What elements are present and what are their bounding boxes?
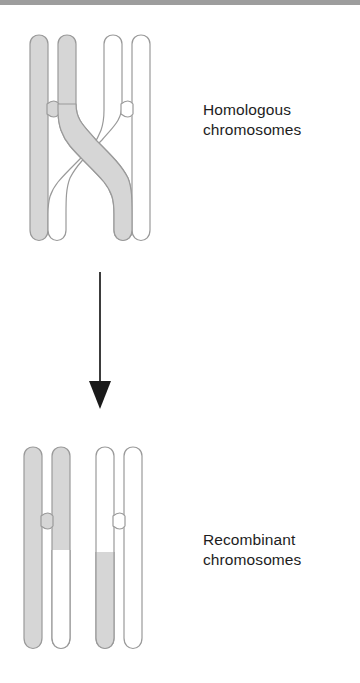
left-outer-chromatid (24, 447, 42, 649)
diagram-canvas (0, 0, 360, 683)
unshaded-right-chromatid (132, 35, 150, 241)
shaded-left-chromatid (30, 35, 48, 241)
stage-recombinant-chromosomes (24, 447, 142, 649)
stage-homologous-chromosomes (30, 35, 150, 241)
right-outer-chromatid (124, 447, 142, 649)
crossing-over-figure: Homologous chromosomes Recombinant chrom… (0, 0, 360, 683)
process-arrow-head (89, 381, 111, 409)
unshaded-centromere (121, 101, 133, 117)
left-recombinant-centromere (41, 513, 53, 529)
process-arrow (89, 272, 111, 409)
shaded-centromere (47, 101, 59, 117)
right-recombinant-centromere (113, 513, 125, 529)
label-homologous-chromosomes: Homologous chromosomes (203, 100, 301, 141)
label-recombinant-chromosomes: Recombinant chromosomes (203, 530, 301, 571)
